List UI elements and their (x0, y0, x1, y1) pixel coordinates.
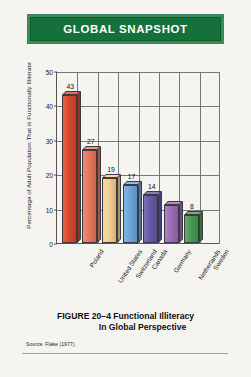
bar-front-face (123, 185, 138, 243)
bar-side-face (199, 211, 203, 243)
bar-side-face (117, 174, 121, 243)
bar-side-face (158, 191, 162, 243)
y-axis-tick-mark (54, 175, 57, 176)
bar-front-face (62, 95, 77, 243)
global-snapshot-banner: GLOBAL SNAPSHOT (27, 14, 224, 44)
bar-front-face (143, 195, 158, 243)
x-axis-category-label: Germany (172, 248, 192, 274)
bar (164, 205, 179, 243)
y-axis-tick-mark (54, 209, 57, 210)
caption-line-1: FIGURE 20–4 Functional Illiteracy (0, 311, 251, 321)
figure-caption: FIGURE 20–4 Functional Illiteracy In Glo… (0, 311, 251, 332)
bar-value-label: 19 (107, 166, 115, 173)
y-axis-tick-label: 0 (49, 241, 53, 248)
bottom-divider (22, 353, 228, 354)
plot-area: 0102030405043271917148 (56, 72, 219, 244)
figure-page: GLOBAL SNAPSHOT Percentage of Adult Popu… (0, 0, 251, 377)
y-axis-tick-label: 40 (46, 103, 53, 110)
y-axis-title: Percentage of Adult Population That is F… (25, 56, 32, 236)
bar-side-face (97, 146, 101, 243)
bar-side-face (179, 201, 183, 243)
y-axis-tick-label: 20 (46, 172, 53, 179)
bar-side-face (77, 91, 81, 243)
y-axis-tick-label: 50 (46, 69, 53, 76)
banner-title: GLOBAL SNAPSHOT (63, 23, 187, 35)
bar (62, 95, 77, 243)
y-axis-tick-mark (54, 106, 57, 107)
bar-value-label: 27 (87, 138, 95, 145)
bar-value-label: 43 (67, 83, 75, 90)
y-axis-tick-mark (54, 244, 57, 245)
y-axis-tick-mark (54, 140, 57, 141)
bar-front-face (82, 150, 97, 243)
bar (123, 185, 138, 243)
bar-chart: Percentage of Adult Population That is F… (0, 58, 251, 308)
y-axis-tick-mark (54, 72, 57, 73)
figure-source: Source: Flake (1977), (26, 341, 76, 347)
bar (184, 215, 199, 243)
y-axis-tick-label: 30 (46, 137, 53, 144)
bar-value-label: 8 (190, 203, 194, 210)
bar-value-label: 14 (148, 183, 156, 190)
x-gridline (219, 72, 220, 244)
bar-front-face (164, 205, 179, 243)
bar-front-face (184, 215, 199, 243)
bar (82, 150, 97, 243)
bar (102, 178, 117, 243)
x-axis-category-label: Poland (88, 248, 105, 269)
bar-value-label: 17 (128, 173, 136, 180)
bar-side-face (138, 181, 142, 243)
caption-line-2: In Global Perspective (34, 322, 251, 332)
bar (143, 195, 158, 243)
banner-inner: GLOBAL SNAPSHOT (30, 17, 221, 41)
y-axis-tick-label: 10 (46, 206, 53, 213)
bar-front-face (102, 178, 117, 243)
